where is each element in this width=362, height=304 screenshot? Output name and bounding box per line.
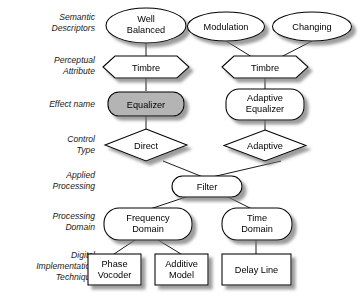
well-balanced-label-line1: Well	[137, 14, 155, 24]
row-label-line1: Control	[67, 134, 96, 144]
row-label-line2: Type	[77, 145, 96, 155]
time-domain-label-line2: Domain	[241, 224, 273, 234]
edge-direct-to-filter	[163, 161, 203, 177]
row-label-line1: Applied	[65, 170, 95, 180]
row-label-semantic-descriptors: Semantic Descriptors	[52, 12, 96, 33]
node-filter[interactable]: Filter	[172, 176, 242, 197]
row-label-effect-name: Effect name	[49, 99, 95, 109]
adaptive-equalizer-label-line1: Adaptive	[247, 93, 283, 103]
node-phase-vocoder[interactable]: Phase Vocoder	[88, 254, 141, 285]
row-label-line2: Implementation	[36, 261, 95, 271]
edge-frequency-domain-to-additive-model	[158, 240, 181, 254]
node-direct[interactable]: Direct	[105, 129, 187, 161]
node-changing[interactable]: Changing	[273, 12, 352, 41]
frequency-domain-label-line2: Domain	[132, 224, 164, 234]
node-time-domain[interactable]: Time Domain	[222, 208, 292, 240]
node-modulation[interactable]: Modulation	[188, 12, 265, 41]
node-frequency-domain[interactable]: Frequency Domain	[104, 208, 192, 240]
row-label-line1: Effect name	[49, 99, 95, 109]
timbre-right-label: Timbre	[251, 63, 279, 73]
adaptive-equalizer-label-line2: Equalizer	[246, 104, 284, 114]
node-additive-model[interactable]: Additive Model	[155, 254, 208, 285]
additive-model-label-line1: Additive	[165, 259, 198, 269]
node-adaptive-equalizer[interactable]: Adaptive Equalizer	[226, 89, 304, 120]
phase-vocoder-label-line1: Phase	[101, 259, 127, 269]
row-label-line2: Domain	[65, 222, 95, 232]
adaptive-label: Adaptive	[247, 141, 283, 151]
additive-model-label-line2: Model	[169, 270, 194, 280]
taxonomy-diagram: Semantic Descriptors Perceptual Attribut…	[0, 0, 362, 304]
well-balanced-label-line2: Balanced	[127, 25, 165, 35]
node-adaptive[interactable]: Adaptive	[224, 130, 306, 161]
time-domain-label-line1: Time	[247, 213, 267, 223]
node-timbre-left[interactable]: Timbre	[103, 56, 189, 78]
row-label-applied-processing: Applied Processing	[52, 170, 95, 191]
row-label-line1: Processing	[52, 211, 95, 221]
row-label-column: Semantic Descriptors Perceptual Attribut…	[36, 12, 96, 282]
node-timbre-right[interactable]: Timbre	[222, 56, 308, 78]
timbre-left-label: Timbre	[132, 63, 160, 73]
node-equalizer[interactable]: Equalizer	[108, 92, 184, 116]
changing-label: Changing	[292, 22, 331, 32]
frequency-domain-label-line1: Frequency	[126, 213, 170, 223]
edge-adaptive-to-filter	[212, 161, 281, 177]
equalizer-label: Equalizer	[127, 100, 165, 110]
direct-label: Direct	[134, 141, 158, 151]
delay-line-label: Delay Line	[235, 265, 278, 275]
edge-modulation-to-timbre-right	[226, 41, 252, 57]
diagram-canvas: Semantic Descriptors Perceptual Attribut…	[0, 0, 362, 304]
row-label-line2: Descriptors	[52, 23, 96, 33]
row-label-control-type: Control Type	[67, 134, 96, 155]
filter-label: Filter	[197, 182, 217, 192]
edge-frequency-domain-to-phase-vocoder	[114, 240, 135, 254]
modulation-label: Modulation	[204, 22, 249, 32]
row-label-perceptual-attribute: Perceptual Attribute	[54, 55, 96, 76]
row-label-line1: Semantic	[59, 12, 96, 22]
row-label-line2: Processing	[52, 181, 95, 191]
row-label-line2: Attribute	[62, 66, 95, 76]
edge-changing-to-timbre-right	[281, 41, 312, 57]
row-label-processing-domain: Processing Domain	[52, 211, 95, 232]
row-label-digital-implementation-technique: Digital Implementation Technique	[36, 250, 96, 282]
phase-vocoder-label-line2: Vocoder	[98, 270, 132, 280]
row-label-line1: Perceptual	[54, 55, 96, 65]
node-well-balanced[interactable]: Well Balanced	[106, 8, 186, 43]
node-delay-line[interactable]: Delay Line	[222, 254, 291, 285]
